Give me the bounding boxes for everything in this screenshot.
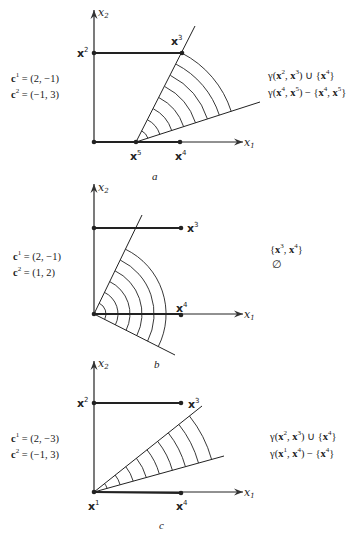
point-label-x4-c: x4 (176, 500, 188, 512)
cost-c1-c: c1 = (2, −3) (11, 432, 59, 445)
point-label-x3-c: x3 (188, 398, 200, 410)
cone-arc (142, 131, 148, 138)
x-axis-label-a: x1 (244, 137, 255, 150)
cone-arc (110, 282, 130, 331)
point-x5 (134, 140, 139, 145)
result-line-2-b: ∅ (272, 260, 282, 271)
y-axis-label-c: x2 (98, 358, 109, 371)
point-x2 (92, 51, 97, 56)
cone-arc (190, 416, 212, 459)
cone-arc (158, 441, 173, 470)
point-x4 (179, 491, 184, 496)
point-label-x4-b: x4 (176, 302, 188, 314)
cone-arc (147, 450, 159, 474)
cone-ray-upper (94, 215, 142, 314)
point-label-x2: x2 (77, 47, 89, 59)
point-label-x4: x4 (175, 150, 187, 162)
x-axis-label-c: x1 (244, 487, 255, 500)
point-label-x5: x5 (130, 150, 142, 162)
cost-c1-b: c1 = (2, −1) (13, 250, 61, 263)
cone-arc (182, 53, 231, 111)
point-x2 (92, 401, 97, 406)
cone-ray-lower (94, 456, 224, 492)
cone-arc (115, 475, 120, 485)
x-axis-label-b: x1 (244, 309, 255, 322)
cone-arc (105, 484, 108, 489)
cone-arc (159, 98, 184, 127)
y-axis-label-a: x2 (98, 7, 109, 20)
point-x4 (178, 140, 183, 145)
result-line-1-a: γ(x2, x3) ∪ {x4} (268, 69, 334, 82)
panel-c (92, 361, 243, 495)
panel-b (92, 184, 243, 355)
cone-arc (176, 64, 219, 115)
point-x3 (179, 226, 184, 231)
cone-ray-upper (136, 26, 195, 142)
cone-ray-upper (94, 406, 202, 492)
point-x1 (92, 490, 97, 495)
cost-c2-b: c2 = (1, 2) (13, 266, 55, 279)
y-axis-label-b: x2 (98, 182, 109, 195)
point-x2 (92, 226, 97, 231)
cone-arc (120, 260, 154, 341)
cone-arc (126, 467, 133, 481)
cost-c1-a: c1 = (2, −1) (11, 72, 59, 85)
cone-arc (136, 458, 146, 477)
result-line-1-b: {x3, x4} (270, 243, 303, 256)
point-label-x2-c: x2 (77, 397, 89, 409)
point-label-x3-b: x3 (187, 222, 199, 234)
point-origin (92, 312, 97, 317)
result-line-1-c: γ(x2, x3) ∪ {x4} (270, 430, 336, 443)
panel-caption-a: a (152, 170, 158, 182)
result-line-2-a: γ(x4, x5) − {x4, x5} (268, 86, 346, 99)
cost-c2-c: c2 = (−1, 3) (11, 448, 59, 461)
point-label-x3: x3 (171, 35, 183, 47)
cone-arc (125, 249, 166, 346)
cost-c2-a: c2 = (−1, 3) (11, 88, 59, 101)
cone-arc (148, 120, 160, 135)
cone-arc (168, 433, 185, 467)
point-x3 (179, 401, 184, 406)
point-label-x1-c: x1 (88, 500, 100, 512)
panel-caption-c: c (159, 519, 164, 531)
edge-x1-x4 (94, 492, 181, 493)
panel-caption-b: b (154, 358, 160, 370)
cone-arcs (105, 416, 212, 488)
result-line-2-c: γ(x1, x4) − {x4} (270, 447, 334, 460)
cone-ray-lower (136, 102, 260, 142)
point-origin (92, 140, 97, 145)
point-x3 (180, 51, 185, 56)
panel-a (92, 10, 260, 144)
cone-arcs (99, 249, 166, 346)
